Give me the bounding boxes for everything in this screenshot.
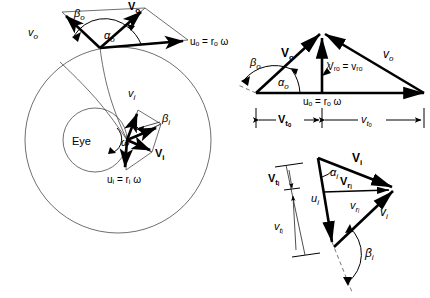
eye-label: Eye [72, 135, 91, 147]
label-V-o: Vo [128, 0, 140, 15]
triangle-i-beta-arc [347, 227, 361, 283]
outer-radius-circle [25, 47, 211, 233]
main-plan-view: Eye ω Vo vo uₒ = rₒ ω αo [25, 0, 229, 233]
triangle-o-label-alpha: αo [278, 76, 289, 91]
label-beta-o: βo [73, 7, 85, 22]
label-beta-i: βi [161, 112, 170, 127]
triangle-o-label-v: vo [383, 47, 394, 63]
triangle-o-beta-arrow [241, 76, 250, 86]
triangle-i-radial-vector [323, 190, 389, 192]
triangle-o-label-radial-eq: Vᵣₒ = vᵣₒ [327, 61, 363, 72]
label-u-o-equation: uₒ = rₒ ω [190, 36, 229, 47]
triangle-o-label-beta: βo [249, 56, 261, 71]
omega-arrow-head [108, 147, 116, 154]
vector-V-i-absolute [127, 140, 150, 150]
triangle-i-label-u: ui [311, 192, 319, 207]
label-u-i-equation: uᵢ = rᵢ ω [107, 174, 141, 185]
triangle-i-label-beta: βi [364, 246, 374, 262]
triangle-i-beta-reference-dash [332, 242, 352, 292]
inner-velocity-triangle: Vi vi ui Vrᵢ vrᵢ αi βi Vtᵢ [268, 151, 393, 292]
alpha-o-arc [128, 27, 141, 44]
triangle-i-label-v: vi [380, 205, 388, 221]
beta-o-arrow [72, 32, 81, 42]
outer-velocity-triangle: Vo vo Vᵣₒ = vᵣₒ uₒ = rₒ ω αo βo Vtₒ vtₒ [238, 34, 424, 128]
triangle-i-dimensions: Vtᵢ vtᵢ [268, 163, 320, 257]
triangle-o-beta-reference-dash [238, 85, 256, 93]
label-V-i: Vi [155, 147, 165, 162]
triangle-i-label-V-radial: Vrᵢ [340, 175, 352, 190]
triangle-o-label-V: Vo [281, 46, 294, 62]
streamline-curve [100, 48, 127, 140]
triangle-o-dimensions: Vtₒ vtₒ [256, 108, 424, 128]
inner-parallelogram-guides [126, 110, 161, 170]
label-v-i: vi [128, 87, 136, 102]
triangle-i-dim-vt-label: vtᵢ [274, 220, 284, 235]
diagram-canvas: Eye ω Vo vo uₒ = rₒ ω αo [0, 0, 430, 298]
triangle-i-label-alpha: αi [330, 166, 338, 181]
triangle-i-beta-arrow-bottom [343, 277, 352, 286]
triangle-i-v-vector [334, 191, 393, 247]
label-v-o: vo [28, 26, 39, 41]
triangle-i-label-v-radial: vrᵢ [350, 199, 360, 214]
triangle-o-label-u-eq: uₒ = rₒ ω [303, 96, 342, 107]
triangle-i-label-V: Vi [352, 151, 362, 167]
triangle-i-dim-Vt-label: Vtᵢ [268, 172, 279, 187]
